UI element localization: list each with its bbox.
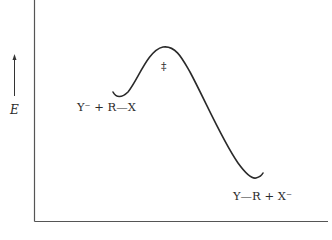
y-axis-label: E [10,104,19,116]
products-label: Y—R + X⁻ [233,191,292,203]
transition-state-label: ‡ [161,61,167,72]
reactants-label: Y⁻ + R—X [77,102,136,114]
energy-arrow-icon [13,54,17,96]
